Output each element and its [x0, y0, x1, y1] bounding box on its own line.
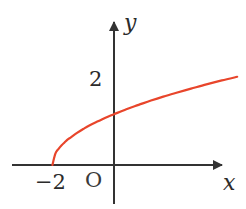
x-tick-label-negative-2: −2: [35, 172, 66, 193]
origin-label: O: [85, 170, 102, 191]
x-axis-label: x: [223, 172, 235, 194]
curve-group: [52, 77, 237, 165]
y-tick-label-2: 2: [89, 69, 102, 90]
math-figure: y x O 2 −2: [0, 0, 246, 209]
y-axis-label: y: [124, 12, 136, 34]
function-curve: [52, 77, 237, 165]
